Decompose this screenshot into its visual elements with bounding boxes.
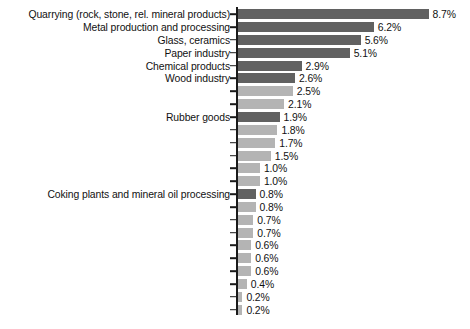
bar-value-label: 2.5%	[297, 86, 320, 97]
bar-row: 0.7%	[0, 226, 470, 239]
bar	[238, 151, 271, 161]
bar-row: Glass, ceramics5.6%	[0, 33, 470, 46]
bar	[238, 266, 251, 276]
bar-value-label: 1.0%	[264, 163, 287, 174]
axis-tick	[230, 116, 237, 118]
axis-tick	[230, 206, 237, 208]
bar-row: 0.6%	[0, 239, 470, 252]
axis-tick	[230, 245, 237, 247]
bar-value-label: 5.1%	[354, 47, 377, 58]
bar	[238, 253, 251, 263]
axis-tick	[230, 270, 237, 272]
axis-tick	[230, 52, 237, 54]
bar	[238, 138, 275, 148]
axis-tick	[230, 142, 237, 144]
bar-value-label: 0.8%	[260, 189, 283, 200]
bar-row: 0.6%	[0, 252, 470, 265]
axis-tick	[230, 296, 237, 298]
bar	[238, 189, 256, 199]
axis-tick	[230, 258, 237, 260]
category-label: Paper industry	[164, 47, 230, 58]
axis-tick	[230, 193, 237, 195]
category-label: Wood industry	[165, 73, 230, 84]
bar-value-label: 2.6%	[299, 73, 322, 84]
bar-row: Coking plants and mineral oil processing…	[0, 187, 470, 200]
bar-row: Quarrying (rock, stone, rel. mineral pro…	[0, 8, 470, 21]
bar-row: 2.1%	[0, 97, 470, 110]
bar	[238, 73, 295, 83]
bar-row: 1.0%	[0, 162, 470, 175]
bar-value-label: 2.1%	[288, 99, 311, 110]
bar-row: Chemical products2.9%	[0, 59, 470, 72]
axis-tick	[230, 309, 237, 311]
axis-tick	[230, 168, 237, 170]
bar-row: 0.4%	[0, 277, 470, 290]
bar	[238, 305, 242, 315]
category-label: Quarrying (rock, stone, rel. mineral pro…	[28, 9, 230, 20]
bar-value-label: 0.2%	[246, 291, 269, 302]
axis-tick	[230, 39, 237, 41]
category-label: Chemical products	[146, 60, 230, 71]
bar-row: Paper industry5.1%	[0, 46, 470, 59]
bar	[238, 35, 361, 45]
bar-value-label: 1.8%	[281, 124, 304, 135]
axis-tick	[230, 155, 237, 157]
bar-value-label: 0.8%	[260, 201, 283, 212]
axis-tick	[230, 65, 237, 67]
category-label: Metal production and processing	[83, 22, 230, 33]
bar	[238, 163, 260, 173]
bar	[238, 125, 277, 135]
bar	[238, 48, 350, 58]
axis-tick	[230, 78, 237, 80]
axis-tick	[230, 129, 237, 131]
bar	[238, 9, 429, 19]
axis-tick	[230, 283, 237, 285]
bar-value-label: 8.7%	[433, 9, 456, 20]
bar-value-label: 0.7%	[257, 227, 280, 238]
bar-row: Metal production and processing6.2%	[0, 20, 470, 33]
bar	[238, 176, 260, 186]
axis-tick	[230, 26, 237, 28]
bar-row: Wood industry2.6%	[0, 72, 470, 85]
axis-tick	[230, 232, 237, 234]
bar	[238, 240, 251, 250]
bar-row: 0.8%	[0, 200, 470, 213]
bar-value-label: 0.6%	[255, 266, 278, 277]
bar-row: 1.7%	[0, 136, 470, 149]
axis-tick	[230, 219, 237, 221]
bar-row: 0.2%	[0, 290, 470, 303]
bar	[238, 202, 256, 212]
horizontal-bar-chart: Quarrying (rock, stone, rel. mineral pro…	[0, 0, 470, 329]
bar-value-label: 0.6%	[255, 253, 278, 264]
bar-value-label: 2.9%	[306, 60, 329, 71]
bar-row: 1.0%	[0, 175, 470, 188]
bar	[238, 22, 374, 32]
bar-row: 0.7%	[0, 213, 470, 226]
bar-value-label: 0.4%	[251, 279, 274, 290]
bar	[238, 215, 253, 225]
category-label: Coking plants and mineral oil processing	[47, 189, 230, 200]
bar-value-label: 0.2%	[246, 304, 269, 315]
category-label: Rubber goods	[166, 111, 230, 122]
bar-row: 1.5%	[0, 149, 470, 162]
bar	[238, 228, 253, 238]
axis-tick	[230, 13, 237, 15]
axis-tick	[230, 180, 237, 182]
bar-row: 0.2%	[0, 303, 470, 316]
bar-value-label: 6.2%	[378, 22, 401, 33]
bar	[238, 99, 284, 109]
bar-value-label: 1.0%	[264, 176, 287, 187]
axis-tick	[230, 90, 237, 92]
category-label: Glass, ceramics	[158, 34, 230, 45]
bar-row: Rubber goods1.9%	[0, 110, 470, 123]
bar-value-label: 1.7%	[279, 137, 302, 148]
bar-value-label: 1.9%	[284, 111, 307, 122]
bar-value-label: 5.6%	[365, 34, 388, 45]
bar	[238, 86, 293, 96]
bar-row: 0.6%	[0, 265, 470, 278]
bar	[238, 292, 242, 302]
axis-tick	[230, 103, 237, 105]
bar	[238, 279, 247, 289]
bar-value-label: 1.5%	[275, 150, 298, 161]
bar	[238, 61, 302, 71]
